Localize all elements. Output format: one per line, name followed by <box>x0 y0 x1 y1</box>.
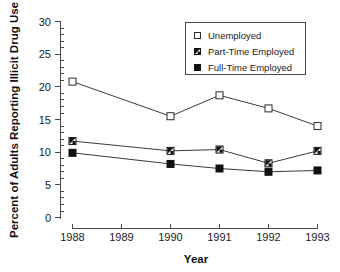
half-filled-square-marker-fill-2 <box>220 150 223 153</box>
half-filled-square-icon-fill-2 <box>198 52 201 55</box>
data-point[interactable] <box>216 146 223 153</box>
filled-square-marker <box>314 167 321 174</box>
legend-label-part-time-employed: Part-Time Employed <box>208 46 294 57</box>
x-tick-label-1989: 1989 <box>109 231 133 243</box>
x-tick-label-1988: 1988 <box>60 231 84 243</box>
data-point[interactable] <box>314 147 321 154</box>
half-filled-square-marker-fill-2 <box>73 141 76 144</box>
legend: Unemployed Part-Time Employed Full-Time … <box>186 23 306 75</box>
half-filled-square-marker-fill-2 <box>269 163 272 166</box>
data-point[interactable] <box>69 149 76 156</box>
chart-figure: 30 25 20 15 10 5 0 Percent of Adults Rep… <box>0 0 340 272</box>
x-tick-label-1990: 1990 <box>158 231 182 243</box>
legend-label-full-time-employed: Full-Time Employed <box>208 62 292 73</box>
y-tick-label-20: 20 <box>39 81 51 93</box>
filled-square-marker <box>167 160 174 167</box>
open-square-marker <box>265 105 272 112</box>
x-tick-label-1991: 1991 <box>207 231 231 243</box>
legend-entry-full-time-employed[interactable]: Full-Time Employed <box>195 62 293 73</box>
data-point[interactable] <box>167 113 174 120</box>
legend-entry-part-time-employed[interactable]: Part-Time Employed <box>195 46 295 57</box>
y-tick-label-30: 30 <box>39 16 51 28</box>
half-filled-square-marker-fill-2 <box>171 151 174 154</box>
y-tick-label-0: 0 <box>45 212 51 224</box>
drug-use-line-chart: 30 25 20 15 10 5 0 Percent of Adults Rep… <box>0 0 340 272</box>
legend-label-unemployed: Unemployed <box>208 30 261 41</box>
data-point[interactable] <box>265 105 272 112</box>
open-square-marker <box>69 78 76 85</box>
x-tick-label-1993: 1993 <box>305 231 329 243</box>
data-point[interactable] <box>265 168 272 175</box>
open-square-marker <box>167 113 174 120</box>
data-point[interactable] <box>314 123 321 130</box>
y-tick-label-10: 10 <box>39 146 51 158</box>
data-point[interactable] <box>167 160 174 167</box>
data-point[interactable] <box>69 78 76 85</box>
half-filled-square-marker-fill-2 <box>318 151 321 154</box>
data-point[interactable] <box>216 165 223 172</box>
data-point[interactable] <box>265 160 272 167</box>
y-tick-label-5: 5 <box>45 179 51 191</box>
y-tick-label-25: 25 <box>39 48 51 60</box>
y-axis-title: Percent of Adults Reporting Illicit Drug… <box>8 2 20 238</box>
data-point[interactable] <box>216 92 223 99</box>
data-point[interactable] <box>314 167 321 174</box>
data-point[interactable] <box>69 138 76 145</box>
filled-square-marker <box>216 165 223 172</box>
y-tick-label-15: 15 <box>39 114 51 126</box>
filled-square-icon <box>195 65 201 71</box>
filled-square-marker <box>265 168 272 175</box>
open-square-marker <box>314 123 321 130</box>
open-square-marker <box>216 92 223 99</box>
filled-square-marker <box>69 149 76 156</box>
x-tick-label-1992: 1992 <box>256 231 280 243</box>
data-point[interactable] <box>167 147 174 154</box>
open-square-icon <box>195 33 201 39</box>
x-axis-title: Year <box>184 253 209 265</box>
